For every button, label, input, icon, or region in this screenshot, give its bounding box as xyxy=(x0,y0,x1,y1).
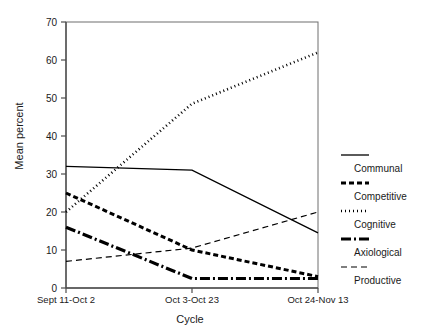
chart-figure: 0 10 20 30 40 50 60 70 Sept 11-Oct 2 Oct… xyxy=(0,0,423,336)
legend-item-cognitive: Cognitive xyxy=(341,211,396,230)
x-axis-title: Cycle xyxy=(150,313,230,325)
x-tick-label-0: Sept 11-Oct 2 xyxy=(37,294,95,305)
series-line-communal xyxy=(66,166,318,233)
y-tick-label-70: 70 xyxy=(46,17,58,28)
series-line-axiological xyxy=(66,227,318,278)
legend-item-communal: Communal xyxy=(341,155,402,174)
y-tick-label-50: 50 xyxy=(46,93,58,104)
x-tick-label-2: Oct 24-Nov 13 xyxy=(287,294,348,305)
legend-label-cognitive: Cognitive xyxy=(354,219,396,230)
y-tick-label-0: 0 xyxy=(51,283,57,294)
y-tick-label-30: 30 xyxy=(46,169,58,180)
chart-legend: Communal Competitive Cognitive Axiologic… xyxy=(341,155,407,286)
y-tick-label-20: 20 xyxy=(46,207,58,218)
legend-label-communal: Communal xyxy=(354,163,402,174)
x-tick-label-1: Oct 3-Oct 23 xyxy=(165,294,219,305)
y-axis: 0 10 20 30 40 50 60 70 xyxy=(46,17,66,294)
y-axis-title: Mean percent xyxy=(13,91,25,181)
series-line-cognitive xyxy=(66,52,318,212)
legend-item-axiological: Axiological xyxy=(341,239,402,258)
legend-label-competitive: Competitive xyxy=(354,191,407,202)
series-line-competitive xyxy=(66,193,318,277)
series-layer xyxy=(66,52,318,278)
legend-label-productive: Productive xyxy=(354,275,402,286)
line-chart: 0 10 20 30 40 50 60 70 Sept 11-Oct 2 Oct… xyxy=(0,0,423,336)
y-tick-label-40: 40 xyxy=(46,131,58,142)
series-line-productive xyxy=(66,212,318,261)
legend-item-productive: Productive xyxy=(341,267,402,286)
plot-frame xyxy=(66,22,318,288)
legend-item-competitive: Competitive xyxy=(341,183,407,202)
x-axis: Sept 11-Oct 2 Oct 3-Oct 23 Oct 24-Nov 13 xyxy=(37,288,349,305)
y-tick-label-60: 60 xyxy=(46,55,58,66)
legend-label-axiological: Axiological xyxy=(354,247,402,258)
y-tick-label-10: 10 xyxy=(46,245,58,256)
plot-border xyxy=(66,22,318,288)
